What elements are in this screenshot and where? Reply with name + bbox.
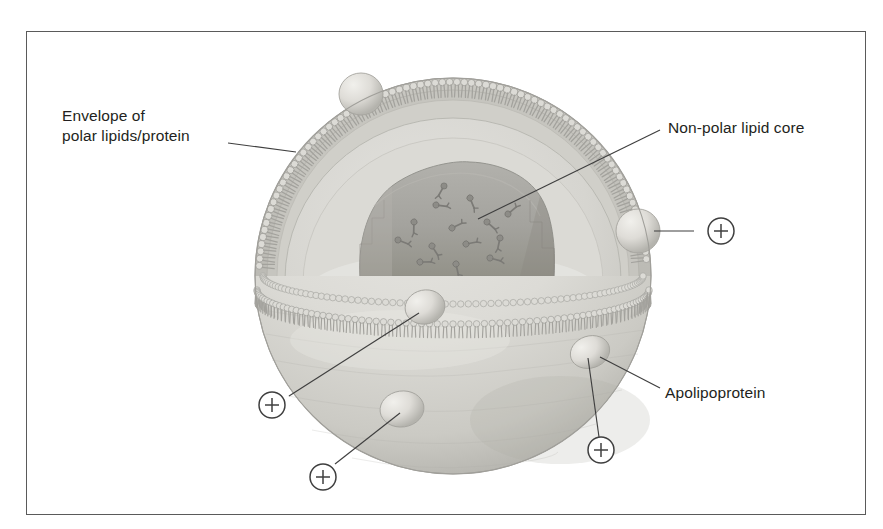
marker-plus-bottom-right bbox=[588, 437, 614, 463]
marker-plus-bottom-left bbox=[310, 464, 336, 490]
marker-plus-right bbox=[708, 218, 734, 244]
envelope-label: Envelope of polar lipids/protein bbox=[62, 106, 190, 147]
envelope-label-line1: Envelope of bbox=[62, 107, 145, 124]
figure-stage bbox=[0, 0, 883, 529]
marker-plus-left bbox=[259, 392, 285, 418]
lipoprotein-particle bbox=[254, 73, 660, 474]
leader-envelope bbox=[228, 143, 296, 152]
apolipoprotein-right bbox=[616, 209, 660, 253]
envelope-label-line2: polar lipids/protein bbox=[62, 127, 190, 144]
core-label: Non-polar lipid core bbox=[668, 118, 804, 138]
lipoprotein-diagram-svg bbox=[0, 0, 883, 529]
apolipoprotein-label: Apolipoprotein bbox=[665, 383, 766, 403]
